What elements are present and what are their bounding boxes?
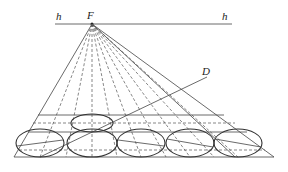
ray-left-outer <box>14 24 92 157</box>
horizon-label-right: h <box>222 10 228 22</box>
diagonal-point-label: D <box>201 65 210 77</box>
bottom-ellipses <box>16 129 262 157</box>
vanishing-point-label: F <box>86 9 94 21</box>
perspective-diagram: h h F D <box>0 0 288 172</box>
horizon-label-left: h <box>56 10 62 22</box>
diagonal-line <box>40 77 207 157</box>
